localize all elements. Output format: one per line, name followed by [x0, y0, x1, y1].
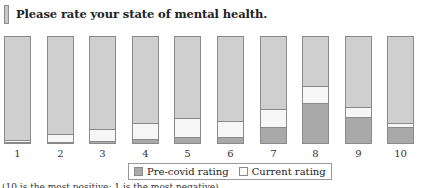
bar-rating-9 — [345, 36, 372, 144]
page-title: Please rate your state of mental health. — [16, 7, 267, 21]
pre-covid-segment — [5, 142, 30, 143]
pre-covid-segment — [388, 127, 413, 143]
question-header: Please rate your state of mental health. — [4, 5, 267, 23]
x-tick-label: 8 — [302, 148, 329, 159]
current-rating-segment — [133, 123, 158, 139]
x-tick-label: 5 — [174, 148, 201, 159]
pre-covid-segment — [90, 141, 115, 143]
bar-rating-2 — [47, 36, 74, 144]
pre-covid-segment — [175, 137, 200, 143]
pre-covid-segment — [303, 103, 328, 143]
pre-covid-segment — [346, 117, 371, 143]
x-tick-label: 4 — [132, 148, 159, 159]
bar-rating-5 — [174, 36, 201, 144]
legend-swatch-pre-covid — [134, 167, 143, 176]
x-tick-label: 10 — [387, 148, 414, 159]
pre-covid-segment — [261, 127, 286, 143]
bar-rating-10 — [387, 36, 414, 144]
bar-rating-6 — [217, 36, 244, 144]
footnote: (10 is the most positive; 1 is the most … — [2, 182, 219, 188]
x-tick-label: 7 — [260, 148, 287, 159]
x-tick-label: 1 — [4, 148, 31, 159]
current-rating-segment — [175, 118, 200, 137]
current-rating-segment — [303, 86, 328, 103]
chart-legend: Pre-covid rating Current rating — [128, 163, 332, 180]
legend-label-current: Current rating — [252, 166, 326, 177]
bar-rating-8 — [302, 36, 329, 144]
bar-rating-3 — [89, 36, 116, 144]
current-rating-segment — [261, 109, 286, 127]
bar-rating-4 — [132, 36, 159, 144]
pre-covid-segment — [48, 142, 73, 143]
x-tick-label: 3 — [89, 148, 116, 159]
x-tick-label: 9 — [345, 148, 372, 159]
pre-covid-segment — [133, 139, 158, 143]
pre-covid-segment — [218, 137, 243, 143]
current-rating-segment — [346, 107, 371, 117]
bar-rating-1 — [4, 36, 31, 144]
legend-label-pre-covid: Pre-covid rating — [147, 166, 229, 177]
current-rating-segment — [218, 121, 243, 137]
x-tick-label: 2 — [47, 148, 74, 159]
x-tick-label: 6 — [217, 148, 244, 159]
current-rating-segment — [90, 129, 115, 141]
title-marker — [4, 5, 9, 24]
legend-swatch-current — [239, 167, 248, 176]
stacked-bar-chart — [0, 36, 421, 144]
current-rating-segment — [48, 134, 73, 142]
bar-rating-7 — [260, 36, 287, 144]
